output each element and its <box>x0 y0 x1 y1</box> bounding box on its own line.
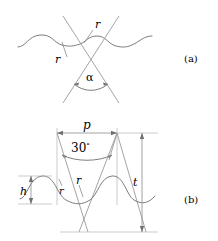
label-p: p <box>83 118 91 132</box>
h-arrow-bottom <box>29 198 33 204</box>
r-lower-leader <box>62 42 67 57</box>
label-r-upper-a: r <box>95 18 101 31</box>
flank-angle-arc <box>62 155 112 160</box>
label-alpha: α <box>86 71 94 84</box>
panel-b-caption: (b) <box>184 194 198 205</box>
panel-b-group: p 30° h <box>18 118 198 232</box>
alpha-arc <box>74 84 108 90</box>
label-h: h <box>20 185 27 198</box>
label-r-right-b: r <box>76 174 82 187</box>
label-t: t <box>133 176 138 189</box>
t-arrow-bottom <box>140 226 144 232</box>
panel-a-group: r r α (a) <box>18 16 198 103</box>
t-arrow-top <box>140 133 144 139</box>
technical-figure: r r α (a) p 30° <box>0 0 218 241</box>
label-flank-angle: 30° <box>71 141 90 155</box>
flank-angle-unit: ° <box>86 142 90 150</box>
label-r-lower-a: r <box>55 53 61 66</box>
flank-right-inner <box>109 133 117 160</box>
panel-a-caption: (a) <box>184 53 198 64</box>
h-arrow-top <box>29 176 33 182</box>
flank-angle-value: 30 <box>71 141 86 155</box>
label-r-left-b: r <box>59 185 65 196</box>
